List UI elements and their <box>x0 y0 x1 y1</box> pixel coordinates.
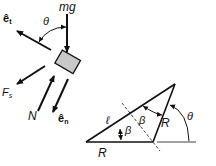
friction-arrow <box>17 66 45 84</box>
r-label-side: R <box>161 116 170 130</box>
beta-arc-2 <box>143 106 162 115</box>
normal-label: N <box>28 109 37 123</box>
normal-arrow <box>38 76 54 111</box>
free-body-diagram: mg êt θ Fs N ên <box>2 0 81 125</box>
r-label-bottom: R <box>98 146 107 160</box>
weight-label: mg <box>59 0 76 14</box>
theta-label-geometry: θ <box>187 110 193 122</box>
friction-label: Fs <box>2 86 13 99</box>
block <box>55 50 81 73</box>
diagram-canvas: mg êt θ Fs N ên <box>0 0 216 166</box>
beta-arc-1 <box>120 129 121 140</box>
theta-arc <box>39 27 66 42</box>
geometry-diagram: ℓ β β R R θ <box>86 84 196 160</box>
beta-label-2: β <box>138 114 146 126</box>
en-label: ên <box>58 112 68 125</box>
beta-label-1: β <box>124 124 132 136</box>
ell-label: ℓ <box>105 114 110 126</box>
en-arrow <box>53 79 68 112</box>
et-label: êt <box>3 12 12 25</box>
theta-label-fbd: θ <box>43 15 49 27</box>
